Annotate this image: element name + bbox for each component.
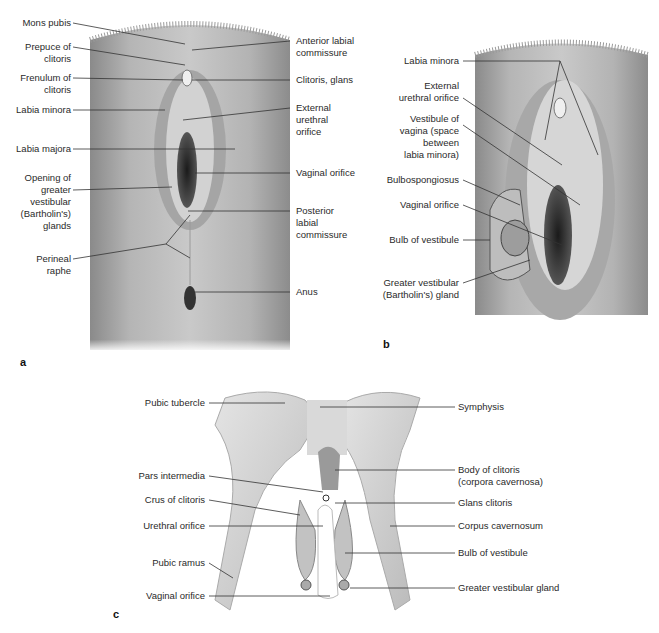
label-anterior-labial-commissure: Anterior labial commissure: [296, 35, 354, 59]
label-c-bulb-of-vestibule: Bulb of vestibule: [458, 547, 528, 559]
label-c-symphysis: Symphysis: [458, 401, 504, 413]
panel-letter-b: b: [383, 338, 390, 350]
label-external-urethral-orifice: External urethral orifice: [296, 102, 331, 138]
label-b-bulbospongiosus: Bulbospongiosus: [387, 174, 459, 186]
label-opening-bartholin-glands: Opening of greater vestibular (Bartholin…: [21, 172, 71, 232]
label-c-urethral-orifice: Urethral orifice: [143, 520, 205, 532]
panel-letter-c: c: [113, 608, 119, 620]
label-c-crus-of-clitoris: Crus of clitoris: [145, 494, 205, 506]
label-anus: Anus: [296, 286, 318, 298]
label-labia-majora: Labia majora: [16, 143, 71, 155]
label-c-body-of-clitoris: Body of clitoris (corpora cavernosa): [458, 464, 543, 488]
label-c-corpus-cavernosum: Corpus cavernosum: [458, 520, 543, 532]
label-labia-minora: Labia minora: [16, 104, 71, 116]
label-clitoris-glans: Clitoris, glans: [296, 74, 353, 86]
label-mons-pubis: Mons pubis: [22, 17, 71, 29]
illustrations: [0, 0, 659, 633]
panel-letter-a: a: [20, 356, 26, 368]
label-c-greater-vestibular-gland: Greater vestibular gland: [458, 582, 559, 594]
panel-a-illustration: [90, 24, 290, 352]
label-prepuce-of-clitoris: Prepuce of clitoris: [25, 41, 71, 65]
label-posterior-labial-commissure: Posterior labial commissure: [296, 205, 347, 241]
label-vaginal-orifice: Vaginal orifice: [296, 167, 355, 179]
label-frenulum-of-clitoris: Frenulum of clitoris: [20, 72, 71, 96]
label-c-pubic-ramus: Pubic ramus: [152, 557, 205, 569]
label-c-pars-intermedia: Pars intermedia: [138, 470, 205, 482]
label-b-vestibule-of-vagina: Vestibule of vagina (space between labia…: [400, 113, 459, 161]
label-c-glans-clitoris: Glans clitoris: [458, 497, 512, 509]
panel-b-illustration: [475, 43, 648, 321]
label-b-greater-vestibular-gland: Greater vestibular (Bartholin's) gland: [383, 277, 459, 301]
panel-c-illustration: [215, 392, 420, 610]
label-b-labia-minora: Labia minora: [404, 55, 459, 67]
label-c-pubic-tubercle: Pubic tubercle: [145, 397, 205, 409]
label-perineal-raphe: Perineal raphe: [36, 253, 71, 277]
label-b-vaginal-orifice: Vaginal orifice: [400, 199, 459, 211]
label-b-external-urethral-orifice: External urethral orifice: [399, 80, 459, 104]
label-c-vaginal-orifice: Vaginal orifice: [146, 590, 205, 602]
label-b-bulb-of-vestibule: Bulb of vestibule: [389, 234, 459, 246]
